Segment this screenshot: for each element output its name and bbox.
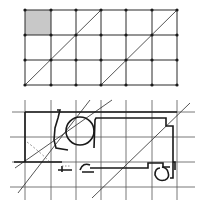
floor-plan-diagram [0,0,203,213]
regulating-grid [10,100,195,200]
regulating-diagonals [15,100,190,198]
plan-walls [14,110,177,180]
diagram-canvas [0,0,203,213]
